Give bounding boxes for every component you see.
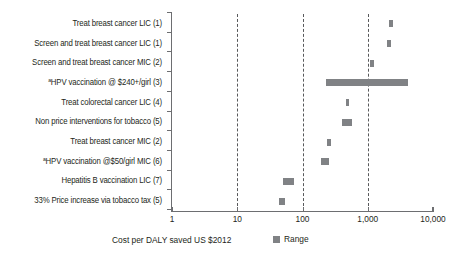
x-axis-tick	[172, 207, 173, 212]
range-bar	[327, 139, 331, 146]
y-axis-tick	[167, 209, 171, 210]
gridline	[303, 14, 304, 211]
category-label: Treat breast cancer LIC (1)	[10, 19, 162, 28]
y-axis-tick	[167, 12, 171, 13]
plot-area	[172, 14, 433, 211]
category-label: aHPV vaccination @ $240+/girl (3)	[10, 78, 162, 87]
y-axis-tick	[167, 150, 171, 151]
y-axis-tick	[167, 130, 171, 131]
category-label: aHPV vaccination @$50/girl MIC (6)	[10, 157, 162, 166]
range-bar	[321, 158, 329, 165]
footnote-marker: a	[48, 77, 51, 83]
gridline	[368, 14, 369, 211]
category-label: Screen and treat breast cancer MIC (2)	[10, 58, 162, 67]
range-bar	[326, 79, 408, 86]
x-axis-tick-label: 1,000	[342, 214, 394, 224]
range-bar	[387, 40, 391, 47]
x-axis-tick-label: 10,000	[407, 214, 450, 224]
range-bar	[283, 178, 294, 185]
y-axis-tick	[167, 170, 171, 171]
x-axis-tick-label: 10	[211, 214, 263, 224]
category-label: Treat breast cancer MIC (2)	[10, 137, 162, 146]
x-axis-tick-label: 1	[146, 214, 198, 224]
y-axis-tick	[167, 51, 171, 52]
x-axis-tick-label: 100	[277, 214, 329, 224]
range-bar	[342, 119, 353, 126]
range-bar	[389, 20, 393, 27]
gridline	[237, 14, 238, 211]
x-axis-tick	[368, 207, 369, 212]
category-label: Hepatitis B vaccination LIC (7)	[10, 176, 162, 185]
legend-swatch-range	[273, 236, 280, 243]
category-axis-labels: Treat breast cancer LIC (1)Screen and tr…	[0, 0, 168, 211]
footnote-marker: a	[43, 156, 46, 162]
x-axis-tick	[433, 207, 434, 212]
category-label: 33% Price increase via tobacco tax (5)	[10, 196, 162, 205]
category-label: Screen and treat breast cancer LIC (1)	[10, 39, 162, 48]
legend-label-range: Range	[284, 234, 309, 244]
range-bar	[346, 99, 349, 106]
range-bar	[370, 60, 374, 67]
y-axis-tick	[167, 91, 171, 92]
y-axis-tick	[167, 111, 171, 112]
category-label: Non price interventions for tobacco (5)	[10, 117, 162, 126]
y-axis-tick	[167, 71, 171, 72]
category-label: Treat colorectal cancer LIC (4)	[10, 98, 162, 107]
x-axis-tick	[303, 207, 304, 212]
range-bar	[279, 198, 285, 205]
x-axis-title: Cost per DALY saved US $2012	[112, 235, 231, 245]
y-axis-tick	[167, 32, 171, 33]
chart-legend: Range	[273, 234, 309, 244]
x-axis-tick	[237, 207, 238, 212]
y-axis-tick	[167, 189, 171, 190]
